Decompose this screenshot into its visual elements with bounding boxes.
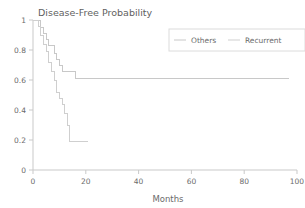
y-tick-label: 0.6 [14, 76, 26, 85]
y-tick-label: 0.8 [14, 46, 26, 55]
x-tick-label: 60 [187, 177, 197, 186]
y-axis-tick-labels: 00.20.40.60.81 [14, 16, 26, 175]
x-axis-ticks [33, 170, 297, 174]
legend-label-recurrent: Recurrent [245, 36, 282, 45]
x-tick-label: 40 [134, 177, 144, 186]
chart-title: Disease-Free Probability [38, 7, 153, 18]
x-tick-label: 80 [239, 177, 249, 186]
x-axis-tick-labels: 020406080100 [31, 177, 305, 186]
y-axis-ticks [29, 20, 33, 170]
x-tick-label: 100 [290, 177, 305, 186]
y-tick-label: 0.2 [14, 136, 26, 145]
series-line-recurrent [33, 20, 88, 142]
survival-curve-chart: 020406080100 00.20.40.60.81 Months Disea… [0, 0, 305, 208]
legend-label-others: Others [191, 36, 216, 45]
y-tick-label: 1 [21, 16, 26, 25]
x-tick-label: 20 [81, 177, 91, 186]
chart-container: 020406080100 00.20.40.60.81 Months Disea… [0, 0, 305, 208]
y-tick-label: 0 [21, 166, 26, 175]
x-tick-label: 0 [31, 177, 36, 186]
x-axis-title: Months [152, 194, 184, 204]
chart-legend: Others Recurrent [169, 29, 305, 51]
y-tick-label: 0.4 [14, 106, 26, 115]
